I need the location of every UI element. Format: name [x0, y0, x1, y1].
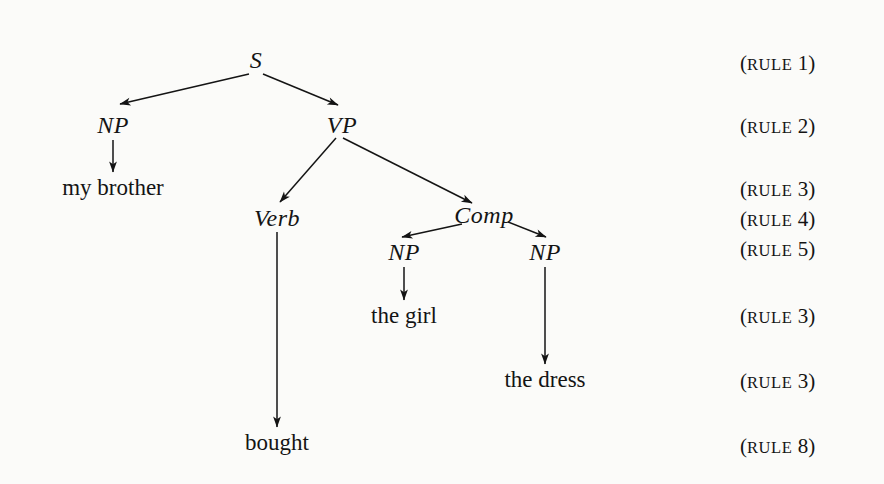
rule-word: rule — [747, 308, 792, 327]
rule-close-paren: ) — [808, 237, 815, 261]
rule-close-paren: ) — [808, 369, 815, 393]
rule-word: rule — [747, 211, 792, 230]
rule-word: rule — [747, 118, 792, 137]
rule-close-paren: ) — [808, 51, 815, 75]
rule-close-paren: ) — [808, 177, 815, 201]
tree-node-np3: NP — [529, 239, 561, 266]
rule-word: rule — [747, 373, 792, 392]
tree-terminal-t-the-girl: the girl — [371, 303, 437, 329]
rule-number: 3 — [798, 304, 809, 328]
tree-edge-comp-to-np3 — [508, 222, 546, 237]
rule-close-paren: ) — [808, 434, 815, 458]
rule-number: 2 — [798, 114, 809, 138]
syntax-tree-figure: SNPVPVerbCompNPNP my brotherthe girlthe … — [0, 0, 884, 484]
rule-number: 8 — [798, 434, 809, 458]
rule-word: rule — [747, 241, 792, 260]
rule-number: 1 — [798, 51, 809, 75]
rule-annotation-rule-4: (rule 4) — [740, 207, 815, 232]
rule-close-paren: ) — [808, 207, 815, 231]
tree-edge-s-to-vp — [263, 74, 338, 105]
rule-number: 3 — [798, 369, 809, 393]
rule-open-paren: ( — [740, 369, 747, 393]
rule-open-paren: ( — [740, 114, 747, 138]
tree-node-comp: Comp — [454, 202, 513, 229]
tree-edge-vp-to-verb — [280, 138, 336, 202]
rule-open-paren: ( — [740, 304, 747, 328]
rule-open-paren: ( — [740, 434, 747, 458]
rule-annotation-rule-7: (rule 3) — [740, 369, 815, 394]
rule-word: rule — [747, 438, 792, 457]
rule-annotation-rule-1: (rule 1) — [740, 51, 815, 76]
tree-terminal-t-the-dress: the dress — [504, 367, 585, 393]
rule-open-paren: ( — [740, 207, 747, 231]
rule-annotation-rule-8: (rule 8) — [740, 434, 815, 459]
tree-node-verb: Verb — [254, 205, 300, 232]
rule-annotation-rule-2: (rule 2) — [740, 114, 815, 139]
tree-edge-s-to-np1 — [120, 74, 249, 104]
rule-open-paren: ( — [740, 237, 747, 261]
rule-annotation-rule-6: (rule 3) — [740, 304, 815, 329]
tree-node-s: S — [250, 47, 263, 74]
rule-number: 5 — [798, 237, 809, 261]
rule-word: rule — [747, 55, 792, 74]
tree-edge-vp-to-comp — [343, 138, 472, 203]
rule-close-paren: ) — [808, 304, 815, 328]
rule-word: rule — [747, 181, 792, 200]
rule-open-paren: ( — [740, 177, 747, 201]
tree-node-vp: VP — [327, 112, 357, 139]
rule-annotation-rule-3: (rule 3) — [740, 177, 815, 202]
rule-number: 3 — [798, 177, 809, 201]
rule-number: 4 — [798, 207, 809, 231]
rule-annotation-rule-5: (rule 5) — [740, 237, 815, 262]
tree-edge-comp-to-np2 — [402, 224, 462, 237]
tree-node-np1: NP — [97, 112, 129, 139]
tree-terminal-t-my-brother: my brother — [62, 175, 164, 201]
tree-terminal-t-bought: bought — [245, 430, 309, 456]
tree-node-np2: NP — [388, 239, 420, 266]
rule-close-paren: ) — [808, 114, 815, 138]
rule-open-paren: ( — [740, 51, 747, 75]
